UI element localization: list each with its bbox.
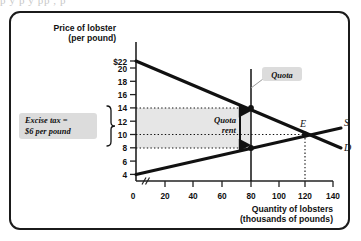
x-tick-60: 60 <box>217 191 227 201</box>
x-tick-100: 100 <box>272 191 286 201</box>
x-tick-120: 120 <box>298 191 312 201</box>
y-axis-title-line1: Price of lobster <box>53 23 116 33</box>
point-demand-at-quota <box>248 105 254 111</box>
y-tick-14: 14 <box>118 103 128 113</box>
supply-curve-label: S <box>344 117 349 128</box>
point-supply-at-quota <box>248 145 254 151</box>
x-axis-title-line2: (thousands of pounds) <box>240 214 333 224</box>
quota-callout-leader <box>251 79 263 88</box>
excise-tax-brace <box>107 106 115 146</box>
y-tick-4: 4 <box>122 170 127 180</box>
x-axis-ticks <box>165 181 333 187</box>
demand-curve-label: D <box>343 142 352 153</box>
x-tick-140: 140 <box>326 191 340 201</box>
quota-rent-label-line1: Quota <box>214 115 237 125</box>
x-tick-0: 0 <box>131 191 136 201</box>
x-tick-20: 20 <box>160 191 170 201</box>
y-tick-6: 6 <box>122 157 127 167</box>
excise-tax-label-line2: $6 per pound <box>24 127 71 136</box>
y-tick-12: 12 <box>118 117 128 127</box>
y-tick-16: 16 <box>118 90 128 100</box>
point-equilibrium <box>302 132 308 138</box>
excise-tax-label-line1: Excise tax = <box>24 116 68 125</box>
quota-callout-label: Quota <box>271 71 292 80</box>
quota-rent-label-line2: rent <box>222 125 237 135</box>
x-axis-tick-labels: 0 20 40 60 80 100 120 140 <box>131 191 341 201</box>
y-tick-20: 20 <box>118 64 128 74</box>
page-top-text-fragment: p y p y pp , p <box>0 0 361 6</box>
y-tick-18: 18 <box>118 77 128 87</box>
figure-frame: $22 20 18 16 14 12 10 8 6 4 Price of lob… <box>9 11 350 230</box>
x-tick-80: 80 <box>246 191 256 201</box>
y-axis-ticks <box>130 61 136 174</box>
x-tick-40: 40 <box>188 191 198 201</box>
x-axis-title-line1: Quantity of lobsters <box>252 204 333 214</box>
equilibrium-label: E <box>299 118 306 129</box>
chart-plot-area: $22 20 18 16 14 12 10 8 6 4 Price of lob… <box>11 13 352 232</box>
y-tick-10: 10 <box>118 130 128 140</box>
y-axis-tick-labels: $22 20 18 16 14 12 10 8 6 4 <box>113 57 127 180</box>
y-tick-8: 8 <box>122 143 127 153</box>
y-axis-title-line2: (per pound) <box>68 33 116 43</box>
